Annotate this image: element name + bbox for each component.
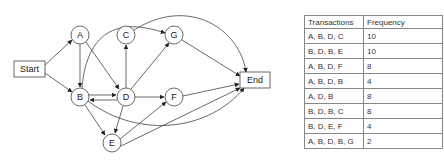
table-row: B, D, B, E10 — [305, 44, 443, 59]
table-row: B, D, B, C8 — [305, 104, 443, 119]
header-frequency: Frequency — [364, 16, 443, 29]
table-row: A, B, D, F8 — [305, 59, 443, 74]
cell-transactions: A, B, D, B — [305, 74, 364, 89]
table-row: A, B, D, B4 — [305, 74, 443, 89]
cell-frequency: 8 — [364, 89, 443, 104]
table-row: A, B, D, C10 — [305, 29, 443, 44]
table-row: A, B, D, B, G2 — [305, 134, 443, 149]
node-f-label: F — [171, 92, 177, 102]
cell-transactions: B, D, B, E — [305, 44, 364, 59]
node-e-label: E — [109, 138, 115, 148]
table-row: B, D, E, F4 — [305, 119, 443, 134]
cell-transactions: B, D, B, C — [305, 104, 364, 119]
node-c-label: C — [123, 30, 130, 40]
header-transactions: Transactions — [305, 16, 364, 29]
cell-frequency: 4 — [364, 119, 443, 134]
process-graph: Start A B C D E F G End — [0, 0, 300, 162]
cell-frequency: 8 — [364, 59, 443, 74]
cell-frequency: 10 — [364, 44, 443, 59]
cell-frequency: 2 — [364, 134, 443, 149]
node-start-label: Start — [20, 64, 40, 74]
cell-transactions: A, B, D, C — [305, 29, 364, 44]
node-end-label: End — [247, 75, 263, 85]
node-g-label: G — [170, 30, 177, 40]
transactions-table: Transactions Frequency A, B, D, C10 B, D… — [304, 15, 443, 149]
node-d-label: D — [123, 92, 130, 102]
cell-transactions: A, B, D, F — [305, 59, 364, 74]
cell-transactions: A, B, D, B, G — [305, 134, 364, 149]
node-b-label: B — [77, 92, 83, 102]
cell-transactions: B, D, E, F — [305, 119, 364, 134]
cell-frequency: 4 — [364, 74, 443, 89]
cell-frequency: 10 — [364, 29, 443, 44]
node-a-label: A — [77, 30, 83, 40]
cell-transactions: A, D, B — [305, 89, 364, 104]
cell-frequency: 8 — [364, 104, 443, 119]
table-header-row: Transactions Frequency — [305, 16, 443, 29]
table-row: A, D, B8 — [305, 89, 443, 104]
